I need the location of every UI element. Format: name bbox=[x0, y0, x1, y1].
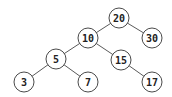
node-label: 20 bbox=[113, 13, 125, 24]
node-label: 17 bbox=[146, 77, 158, 88]
tree-node-7: 7 bbox=[78, 72, 98, 92]
tree-node-10: 10 bbox=[78, 28, 98, 48]
tree-node-15: 15 bbox=[111, 50, 131, 70]
node-label: 30 bbox=[146, 33, 158, 44]
tree-node-20: 20 bbox=[109, 8, 129, 28]
node-label: 3 bbox=[21, 77, 27, 88]
tree-node-5: 5 bbox=[46, 49, 66, 69]
binary-tree-diagram: 2010305153717 bbox=[0, 0, 172, 97]
node-label: 7 bbox=[85, 77, 91, 88]
node-label: 15 bbox=[115, 55, 127, 66]
node-label: 5 bbox=[53, 54, 59, 65]
tree-node-3: 3 bbox=[14, 72, 34, 92]
tree-node-30: 30 bbox=[142, 28, 162, 48]
node-label: 10 bbox=[82, 33, 94, 44]
tree-node-17: 17 bbox=[142, 72, 162, 92]
tree-nodes: 2010305153717 bbox=[14, 8, 162, 92]
